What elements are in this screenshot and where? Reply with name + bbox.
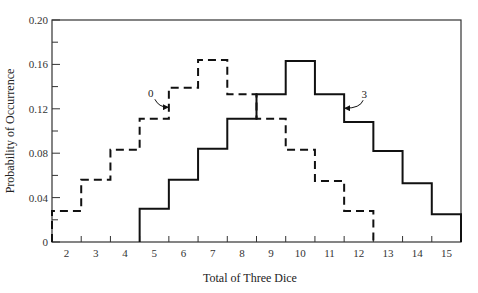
x-tick-label: 11 xyxy=(324,247,335,259)
y-axis: 00.040.080.120.160.20 xyxy=(29,14,60,248)
y-tick-label: 0.04 xyxy=(29,192,49,204)
series-label-3: 3 xyxy=(361,88,367,100)
annotations: 03 xyxy=(148,87,367,108)
arrow-icon xyxy=(155,99,168,107)
x-tick-label: 3 xyxy=(93,247,99,259)
x-tick-label: 7 xyxy=(210,247,216,259)
x-axis-title: Total of Three Dice xyxy=(203,271,297,285)
y-axis-title: Probability of Occurrence xyxy=(3,69,17,194)
x-tick-label: 5 xyxy=(152,247,158,259)
series-label-0: 0 xyxy=(148,87,154,99)
y-tick-label: 0 xyxy=(43,236,49,248)
step-chart: 00.040.080.120.160.20 234567891011121314… xyxy=(0,0,478,293)
arrow-icon xyxy=(345,100,363,108)
x-tick-label: 9 xyxy=(268,247,274,259)
plot-border xyxy=(52,20,461,242)
x-tick-label: 2 xyxy=(64,247,70,259)
series-0-step-line xyxy=(52,60,373,242)
x-tick-label: 10 xyxy=(295,247,307,259)
series-group xyxy=(52,60,461,242)
plot-frame xyxy=(52,20,461,242)
y-tick-label: 0.08 xyxy=(29,147,49,159)
x-tick-label: 12 xyxy=(353,247,364,259)
x-tick-label: 6 xyxy=(181,247,187,259)
y-tick-label: 0.16 xyxy=(29,58,49,70)
x-tick-label: 14 xyxy=(412,247,424,259)
x-tick-label: 8 xyxy=(239,247,245,259)
x-axis: 23456789101112131415 xyxy=(64,236,453,259)
y-tick-label: 0.20 xyxy=(29,14,49,26)
x-tick-label: 13 xyxy=(382,247,394,259)
x-tick-label: 4 xyxy=(122,247,128,259)
x-tick-label: 15 xyxy=(441,247,453,259)
y-tick-label: 0.12 xyxy=(29,103,48,115)
